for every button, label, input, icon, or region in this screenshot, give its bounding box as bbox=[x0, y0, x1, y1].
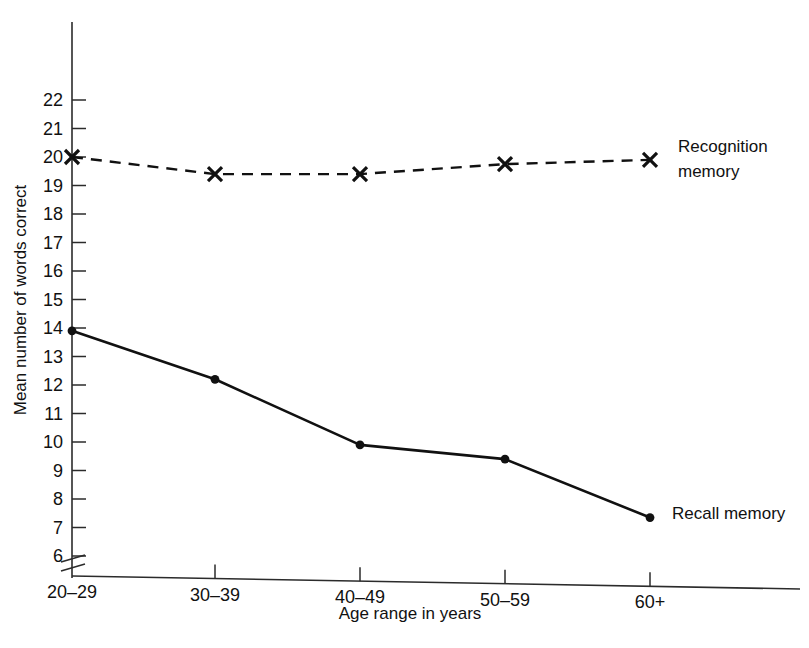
y-tick-label: 7 bbox=[53, 518, 63, 538]
y-tick-label: 16 bbox=[43, 261, 63, 281]
recognition-memory-label-line1: Recognition bbox=[678, 137, 768, 156]
y-tick-label: 12 bbox=[43, 375, 63, 395]
y-tick-label: 15 bbox=[43, 290, 63, 310]
recall-memory-label-line1: Recall memory bbox=[672, 504, 786, 523]
x-tick-label: 50–59 bbox=[480, 590, 530, 610]
y-tick-label: 9 bbox=[53, 461, 63, 481]
x-tick-label: 60+ bbox=[635, 592, 666, 612]
y-tick-label: 22 bbox=[43, 90, 63, 110]
x-axis: 20–2930–3940–4950–5960+ Age range in yea… bbox=[47, 565, 800, 623]
recognition-memory-label-line2: memory bbox=[678, 162, 740, 181]
x-axis-title: Age range in years bbox=[339, 604, 482, 623]
x-axis-line bbox=[72, 576, 800, 589]
y-axis-break-icon bbox=[61, 555, 85, 571]
y-tick-label: 20 bbox=[43, 147, 63, 167]
x-tick-label: 20–29 bbox=[47, 582, 97, 602]
recall-marker bbox=[68, 326, 77, 335]
recall-marker bbox=[646, 513, 655, 522]
recognition-memory-markers bbox=[65, 150, 657, 181]
y-tick-label: 19 bbox=[43, 176, 63, 196]
y-tick-label: 6 bbox=[53, 546, 63, 566]
y-tick-label: 10 bbox=[43, 432, 63, 452]
y-tick-label: 11 bbox=[44, 404, 63, 424]
recall-memory-markers bbox=[68, 326, 655, 521]
recall-marker bbox=[501, 455, 510, 464]
series-recall-memory: Recall memory bbox=[68, 326, 786, 523]
recall-memory-line bbox=[72, 331, 650, 518]
line-chart: 678910111213141516171819202122 Mean numb… bbox=[0, 0, 809, 648]
y-axis-tick-labels: 678910111213141516171819202122 bbox=[43, 90, 63, 566]
y-axis: 678910111213141516171819202122 Mean numb… bbox=[11, 22, 86, 578]
recall-marker bbox=[211, 375, 220, 384]
chart-figure: 678910111213141516171819202122 Mean numb… bbox=[0, 0, 809, 648]
series-recognition-memory: Recognition memory bbox=[65, 137, 768, 181]
recall-marker bbox=[356, 440, 365, 449]
y-tick-label: 14 bbox=[43, 318, 63, 338]
y-axis-title: Mean number of words correct bbox=[11, 184, 30, 415]
y-tick-label: 8 bbox=[53, 489, 63, 509]
y-tick-label: 13 bbox=[43, 347, 63, 367]
x-tick-label: 30–39 bbox=[190, 585, 240, 605]
y-tick-label: 21 bbox=[43, 119, 63, 139]
y-tick-label: 18 bbox=[43, 204, 63, 224]
y-tick-label: 17 bbox=[43, 233, 63, 253]
